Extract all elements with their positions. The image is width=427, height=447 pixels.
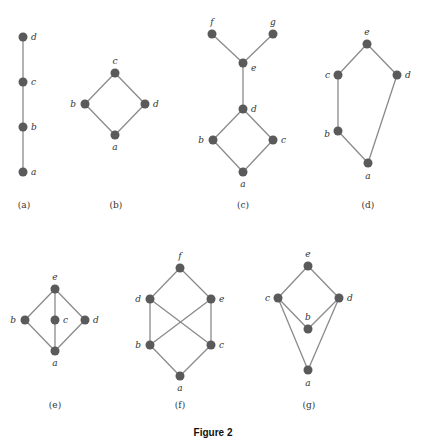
edge-c-e (278, 266, 308, 298)
vertex-e (363, 40, 372, 49)
vertex-label: d (93, 315, 99, 325)
edge-a-b (213, 140, 243, 172)
vertex-label: g (270, 17, 276, 27)
edge-b-d (308, 298, 339, 329)
edge-e-f (212, 34, 243, 63)
vertex-c (111, 69, 120, 78)
vertex-label: d (31, 32, 37, 42)
vertex-label: e (52, 272, 57, 282)
vertex-f (176, 264, 185, 273)
edge-a-b (25, 320, 55, 351)
vertex-label: b (10, 315, 16, 325)
edge-a-c (243, 140, 273, 172)
vertex-label: e (251, 63, 256, 73)
vertex-label: d (347, 293, 353, 303)
vertex-label: a (240, 179, 245, 189)
edge-b-c (278, 298, 308, 329)
vertex-e (304, 262, 313, 271)
edge-b-e (25, 289, 55, 320)
edge-b-c (85, 73, 115, 104)
subfigure-label: (c) (237, 200, 249, 210)
vertex-d (146, 295, 155, 304)
vertex-label: f (209, 17, 215, 27)
vertex-label: c (112, 56, 117, 66)
vertex-b (81, 100, 90, 109)
edge-a-b (338, 131, 368, 163)
subfigure-label: (g) (303, 400, 316, 410)
vertex-a (19, 168, 28, 177)
vertex-label: c (31, 77, 36, 87)
vertex-d (393, 71, 402, 80)
edge-d-e (308, 266, 339, 298)
vertex-label: a (177, 383, 182, 393)
vertex-c (334, 71, 343, 80)
vertex-d (19, 33, 28, 42)
vertex-a (239, 168, 248, 177)
vertex-label: e (219, 294, 224, 304)
edge-d-f (150, 268, 180, 299)
edge-e-g (243, 34, 273, 63)
vertex-label: d (251, 104, 257, 114)
vertex-label: a (305, 378, 310, 388)
vertex-d (81, 316, 90, 325)
vertex-c (274, 294, 283, 303)
vertex-label: d (153, 99, 159, 109)
edge-a-d (115, 104, 145, 135)
edge-d-c (115, 73, 145, 104)
vertex-f (208, 30, 217, 39)
vertex-label: b (135, 340, 141, 350)
vertex-d (239, 105, 248, 114)
edge-e-f (180, 268, 211, 299)
vertex-label: b (70, 99, 76, 109)
diagram-e: abcde(e) (10, 272, 99, 410)
vertex-c (51, 316, 60, 325)
vertex-a (51, 347, 60, 356)
vertex-b (21, 316, 30, 325)
vertex-label: b (198, 135, 204, 145)
edge-a-d (55, 320, 85, 351)
edge-a-c (278, 298, 308, 370)
vertex-label: c (325, 70, 330, 80)
vertex-b (304, 325, 313, 334)
diagram-a: abcd(a) (18, 32, 37, 210)
hasse-diagrams: abcd(a)abcd(b)abcdefg(c)abcde(d)abcde(e)… (10, 17, 411, 410)
edge-d-e (55, 289, 85, 320)
vertex-label: b (305, 312, 311, 322)
subfigure-label: (f) (175, 400, 185, 410)
edge-b-d (213, 109, 243, 140)
vertex-c (207, 341, 216, 350)
vertex-label: a (112, 142, 117, 152)
vertex-label: c (219, 340, 224, 350)
vertex-g (269, 30, 278, 39)
vertex-a (304, 366, 313, 375)
vertex-label: d (405, 70, 411, 80)
vertex-d (335, 294, 344, 303)
edge-a-b (150, 345, 180, 376)
edge-c-e (338, 44, 367, 75)
vertex-b (19, 123, 28, 132)
diagram-g: abcde(g) (265, 249, 353, 410)
vertex-b (334, 127, 343, 136)
vertex-label: f (177, 251, 183, 261)
subfigure-label: (e) (49, 400, 61, 410)
vertex-label: d (135, 294, 141, 304)
vertex-b (146, 341, 155, 350)
vertex-label: a (52, 358, 57, 368)
diagram-d: abcde(d) (324, 27, 411, 210)
edge-a-c (180, 345, 211, 376)
vertex-label: b (324, 129, 330, 139)
diagram-c: abcdefg(c) (198, 17, 286, 210)
diagram-f: abcdef(f) (135, 251, 224, 410)
vertex-c (269, 136, 278, 145)
subfigure-label: (a) (18, 200, 30, 210)
figure-canvas: abcd(a)abcd(b)abcdefg(c)abcde(d)abcde(e)… (0, 0, 427, 447)
vertex-a (111, 131, 120, 140)
vertex-label: a (31, 167, 36, 177)
edge-a-d (308, 298, 339, 370)
vertex-label: a (365, 171, 370, 181)
diagram-b: abcd(b) (70, 56, 159, 210)
subfigure-label: (b) (110, 200, 123, 210)
vertex-label: c (63, 315, 68, 325)
vertex-a (176, 372, 185, 381)
vertex-b (209, 136, 218, 145)
